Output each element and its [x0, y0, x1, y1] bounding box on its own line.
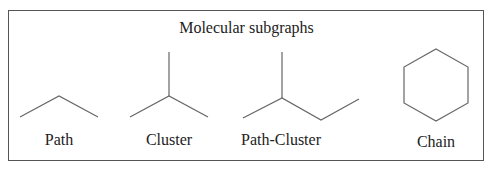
chain-subgraph [404, 49, 468, 121]
label-cluster: Cluster [146, 131, 192, 149]
label-chain: Chain [417, 133, 455, 151]
label-path-cluster: Path-Cluster [241, 131, 321, 149]
label-path: Path [45, 131, 73, 149]
path-subgraph [20, 96, 98, 117]
cluster-subgraph [130, 52, 208, 117]
path-cluster-subgraph [243, 52, 359, 120]
